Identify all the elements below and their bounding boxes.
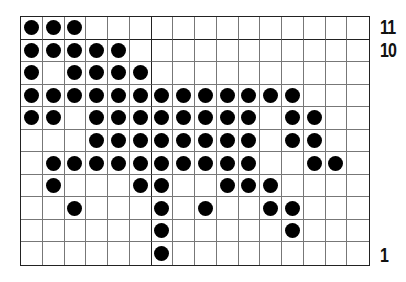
grid-cell xyxy=(86,85,108,108)
grid-cell xyxy=(304,107,326,130)
grid-cell xyxy=(260,40,282,63)
grid-cell xyxy=(304,242,326,265)
grid-cell xyxy=(152,107,174,130)
grid-cell xyxy=(326,17,348,40)
grid-cell xyxy=(130,62,152,85)
stitch-dot-icon xyxy=(89,110,104,125)
stitch-dot-icon xyxy=(89,65,104,80)
stitch-dot-icon xyxy=(241,156,256,171)
grid-cell xyxy=(173,17,195,40)
grid-cell xyxy=(43,62,65,85)
grid-cell xyxy=(326,242,348,265)
grid-cell xyxy=(152,17,174,40)
stitch-dot-icon xyxy=(111,88,126,103)
grid-cell xyxy=(195,62,217,85)
grid-cell xyxy=(282,85,304,108)
grid-cell xyxy=(239,152,261,175)
stitch-dot-icon xyxy=(241,88,256,103)
grid-cell xyxy=(195,242,217,265)
grid-cell xyxy=(347,152,369,175)
stitch-dot-icon xyxy=(285,201,300,216)
stitch-dot-icon xyxy=(154,133,169,148)
stitch-dot-icon xyxy=(307,156,322,171)
grid-cell xyxy=(282,130,304,153)
grid-cell xyxy=(152,62,174,85)
grid-cell xyxy=(86,17,108,40)
grid-cell xyxy=(239,107,261,130)
stitch-dot-icon xyxy=(220,178,235,193)
grid-cell xyxy=(43,175,65,198)
grid-cell xyxy=(108,152,130,175)
grid-cell xyxy=(195,220,217,243)
grid-cell xyxy=(43,85,65,108)
grid-cell xyxy=(86,242,108,265)
stitch-dot-icon xyxy=(285,110,300,125)
grid-cell xyxy=(239,17,261,40)
grid-cell xyxy=(304,17,326,40)
stitch-dot-icon xyxy=(24,65,39,80)
grid-cell xyxy=(282,242,304,265)
grid-cell xyxy=(21,220,43,243)
grid-cell xyxy=(217,17,239,40)
stitch-dot-icon xyxy=(220,133,235,148)
stitch-dot-icon xyxy=(133,156,148,171)
grid-cell xyxy=(108,17,130,40)
grid-cell xyxy=(43,242,65,265)
grid-cell xyxy=(282,220,304,243)
grid-cell xyxy=(86,175,108,198)
grid-cell xyxy=(173,242,195,265)
grid-cell xyxy=(108,40,130,63)
stitch-dot-icon xyxy=(176,156,191,171)
grid-cell xyxy=(173,130,195,153)
stitch-dot-icon xyxy=(220,110,235,125)
grid-cell xyxy=(195,85,217,108)
grid-cell xyxy=(217,62,239,85)
stitch-dot-icon xyxy=(307,133,322,148)
grid-cell xyxy=(21,107,43,130)
grid-cell xyxy=(86,220,108,243)
grid-cell xyxy=(239,40,261,63)
grid-cell xyxy=(217,107,239,130)
grid-cell xyxy=(43,130,65,153)
stitch-dot-icon xyxy=(67,43,82,58)
grid-cell xyxy=(173,175,195,198)
grid-cell xyxy=(130,40,152,63)
grid-cell xyxy=(239,175,261,198)
grid-cell xyxy=(86,197,108,220)
grid-cell xyxy=(347,85,369,108)
grid-cell xyxy=(21,85,43,108)
grid-cell xyxy=(304,85,326,108)
stitch-dot-icon xyxy=(46,110,61,125)
grid-cell xyxy=(21,130,43,153)
grid-cell xyxy=(65,175,87,198)
grid-cell xyxy=(43,107,65,130)
grid-cell xyxy=(217,40,239,63)
stitch-dot-icon xyxy=(89,156,104,171)
stitch-dot-icon xyxy=(176,133,191,148)
stitch-dot-icon xyxy=(67,201,82,216)
grid-cell xyxy=(347,130,369,153)
grid-cell xyxy=(239,220,261,243)
grid-cell xyxy=(347,242,369,265)
stitch-dot-icon xyxy=(67,65,82,80)
grid-cell xyxy=(152,40,174,63)
stitch-dot-icon xyxy=(67,20,82,35)
grid-cell xyxy=(260,17,282,40)
grid-cell xyxy=(173,85,195,108)
grid-cell xyxy=(217,175,239,198)
grid-cell xyxy=(195,175,217,198)
stitch-dot-icon xyxy=(220,156,235,171)
grid-cell xyxy=(21,242,43,265)
grid-cell xyxy=(347,62,369,85)
stitch-dot-icon xyxy=(133,178,148,193)
grid-cell xyxy=(304,40,326,63)
grid-cell xyxy=(239,130,261,153)
grid-cell xyxy=(173,197,195,220)
grid-cell xyxy=(326,85,348,108)
grid-cell xyxy=(260,220,282,243)
grid-cell xyxy=(65,107,87,130)
stitch-dot-icon xyxy=(133,88,148,103)
grid-cell xyxy=(282,17,304,40)
stitch-dot-icon xyxy=(263,88,278,103)
grid-cell xyxy=(86,40,108,63)
